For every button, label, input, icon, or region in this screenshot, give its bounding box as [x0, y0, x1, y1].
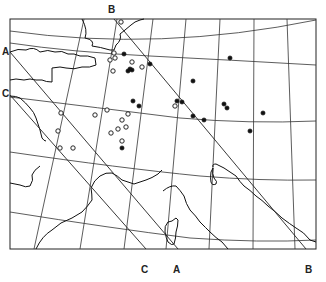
open-site-marker — [120, 118, 124, 122]
map-frame — [10, 19, 316, 249]
open-site-marker — [58, 146, 62, 150]
filled-site-marker — [131, 99, 135, 103]
open-site-marker — [140, 65, 144, 69]
filled-site-marker — [228, 56, 232, 60]
open-site-marker — [56, 129, 60, 133]
coast-italy-west — [163, 186, 228, 249]
open-site-marker — [113, 56, 117, 60]
trend-line-a — [10, 52, 178, 249]
label-b-top: B — [108, 5, 115, 15]
open-site-marker — [119, 20, 123, 24]
filled-site-marker — [137, 104, 141, 108]
label-a-bottom: A — [173, 265, 180, 275]
trend-line-b — [114, 19, 306, 249]
filled-site-marker — [175, 99, 179, 103]
filled-site-marker — [222, 102, 226, 106]
trend-line-c — [10, 95, 146, 249]
open-site-marker — [108, 58, 112, 62]
filled-site-marker — [225, 106, 229, 110]
open-site-marker — [126, 112, 130, 116]
coast-spain — [10, 166, 40, 187]
coast-med — [36, 170, 162, 249]
label-b-bottom: B — [305, 265, 312, 275]
coast-france-north — [10, 48, 96, 82]
label-c-left: C — [2, 89, 9, 99]
filled-site-marker — [120, 146, 124, 150]
filled-site-marker — [248, 129, 252, 133]
open-site-marker — [130, 60, 134, 64]
label-a-left: A — [2, 47, 9, 57]
open-site-marker — [112, 51, 116, 55]
coast-france-west — [10, 96, 46, 141]
map-canvas — [0, 0, 326, 282]
filled-site-marker — [128, 67, 132, 71]
coastlines — [10, 19, 316, 249]
open-site-marker — [173, 104, 177, 108]
coast-italy-east — [213, 164, 316, 242]
filled-site-marker — [191, 114, 195, 118]
coast-adriatic-north — [211, 168, 217, 185]
filled-site-marker — [261, 111, 265, 115]
filled-site-marker — [202, 118, 206, 122]
filled-site-marker — [180, 100, 184, 104]
open-site-marker — [111, 69, 115, 73]
filled-site-marker — [191, 79, 195, 83]
trend-lines — [10, 19, 306, 249]
open-site-marker — [124, 125, 128, 129]
open-site-marker — [109, 131, 113, 135]
filled-site-marker — [122, 52, 126, 56]
filled-site-marker — [148, 62, 152, 66]
open-site-marker — [71, 146, 75, 150]
label-c-bottom: C — [141, 265, 148, 275]
open-site-marker — [120, 139, 124, 143]
open-site-marker — [105, 108, 109, 112]
open-site-marker — [116, 127, 120, 131]
open-site-marker — [93, 113, 97, 117]
open-site-marker — [59, 111, 63, 115]
